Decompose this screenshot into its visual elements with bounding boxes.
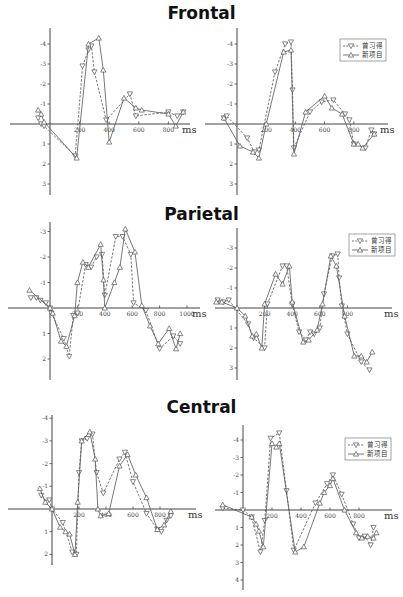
triangle-up-marker-icon: [301, 544, 306, 549]
triangle-up-marker-icon: [277, 441, 282, 446]
x-tick-label: 400: [295, 512, 307, 519]
triangle-up-marker-icon: [330, 476, 335, 481]
y-tick-label: 3: [235, 559, 239, 566]
triangle-up-marker-icon: [374, 530, 379, 535]
y-tick-label: 2: [235, 541, 239, 548]
chart-central-right: -4-3-2-11234200400600800ms曾习得新项目: [0, 0, 403, 597]
triangle-down-marker-icon: [268, 436, 273, 441]
y-tick-label: -3: [233, 454, 239, 461]
x-tick-label: 800: [353, 512, 365, 519]
triangle-up-marker-icon: [354, 530, 359, 535]
y-tick-label: -2: [233, 471, 239, 478]
legend-label: 曾习得: [367, 440, 388, 449]
triangle-down-marker-icon: [371, 525, 376, 530]
triangle-down-marker-icon: [262, 518, 267, 523]
legend-label: 新项目: [367, 449, 388, 458]
triangle-up-marker-icon: [253, 521, 258, 526]
legend: 曾习得新项目: [345, 438, 391, 460]
x-tick-label: 600: [324, 512, 336, 519]
triangle-down-marker-icon: [258, 550, 263, 555]
y-tick-label: -4: [233, 436, 239, 443]
triangle-up-marker-icon: [220, 502, 225, 507]
x-unit-label: ms: [384, 510, 399, 521]
y-tick-label: -1: [233, 489, 239, 496]
triangle-down-marker-icon: [277, 431, 282, 436]
triangle-up-marker-icon: [256, 528, 261, 533]
y-tick-label: 1: [235, 524, 239, 531]
triangle-down-marker-icon: [368, 543, 373, 548]
x-tick-label: 200: [266, 512, 278, 519]
y-tick-label: 4: [235, 576, 239, 583]
